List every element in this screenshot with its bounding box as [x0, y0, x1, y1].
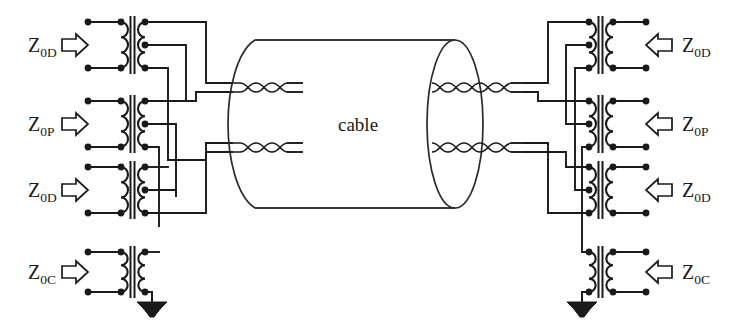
transformer-right-2 — [586, 95, 650, 153]
coil-secondary — [138, 252, 145, 292]
ground-icon — [147, 313, 157, 317]
ground-icon — [577, 313, 587, 317]
right-arrow-icon — [62, 113, 88, 135]
cable-end-face — [427, 40, 483, 208]
coil-primary — [121, 252, 128, 292]
left-arrow-icon — [646, 261, 672, 283]
terminal-dot — [643, 210, 650, 217]
cable-label: cable — [338, 114, 378, 135]
z-label-right-3: Z0D — [682, 179, 711, 205]
ground-icon — [573, 308, 591, 313]
port-label-right-3: Z0D — [646, 179, 711, 205]
right-interconnect-wiring — [524, 22, 589, 300]
transformer-left-1 — [85, 16, 149, 74]
left-arrow-icon — [646, 34, 672, 56]
ground-left — [137, 292, 167, 317]
left-arrow-icon — [646, 113, 672, 135]
terminal-dot-centertap — [586, 121, 593, 128]
terminal-dot — [643, 98, 650, 105]
terminal-dot — [643, 144, 650, 151]
port-label-left-1: Z0D — [28, 34, 88, 60]
coil-primary — [606, 167, 613, 213]
z-label-left-4: Z0C — [28, 261, 56, 287]
coil-primary — [606, 252, 613, 292]
coil-primary — [121, 167, 128, 213]
left-interconnect-wiring — [145, 22, 232, 300]
schematic-diagram: cable — [0, 0, 734, 325]
coil-primary — [606, 22, 613, 68]
z-label-right-4: Z0C — [682, 261, 710, 287]
coil-primary — [121, 101, 128, 147]
port-label-right-4: Z0C — [646, 261, 710, 287]
port-label-left-2: Z0P — [28, 113, 88, 139]
terminal-dot — [643, 164, 650, 171]
transformer-left-3 — [85, 161, 149, 219]
ground-icon — [143, 308, 161, 313]
port-label-right-2: Z0P — [646, 113, 708, 139]
ground-right — [567, 292, 597, 317]
left-arrow-icon — [646, 179, 672, 201]
right-arrow-icon — [62, 261, 88, 283]
ground-icon — [567, 302, 597, 308]
transformer-right-1 — [586, 16, 650, 74]
right-arrow-icon — [62, 34, 88, 56]
right-arrow-icon — [62, 179, 88, 201]
coil-secondary — [589, 252, 596, 292]
z-label-left-2: Z0P — [28, 113, 54, 139]
z-label-left-1: Z0D — [28, 34, 57, 60]
terminal-dot — [643, 289, 650, 296]
terminal-dot-centertap — [586, 187, 593, 194]
z-label-right-1: Z0D — [682, 34, 711, 60]
port-label-right-1: Z0D — [646, 34, 711, 60]
twisted-pair-left-lower — [232, 143, 302, 152]
terminal-dot-centertap — [586, 42, 593, 49]
transformer-right-4 — [586, 246, 650, 298]
terminal-dot — [643, 249, 650, 256]
z-label-right-2: Z0P — [682, 113, 708, 139]
ground-icon — [137, 302, 167, 308]
port-label-left-3: Z0D — [28, 179, 88, 205]
transformer-left-2 — [85, 95, 149, 153]
terminal-dot — [643, 19, 650, 26]
twisted-pair-left-upper — [232, 83, 302, 92]
transformer-right-3 — [586, 161, 650, 219]
coil-primary — [121, 22, 128, 68]
port-label-left-4: Z0C — [28, 261, 88, 287]
schematic-canvas: cable — [0, 0, 734, 325]
coil-primary — [606, 101, 613, 147]
terminal-dot — [643, 65, 650, 72]
transformer-left-4 — [85, 246, 149, 298]
z-label-left-3: Z0D — [28, 179, 57, 205]
